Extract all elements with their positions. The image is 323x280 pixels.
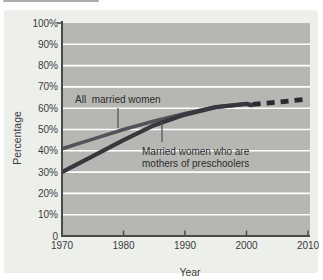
x-tick-label-1990: 1990 — [174, 240, 197, 251]
y-tick-label-30: 30% — [38, 167, 58, 178]
x-tick-label-1980: 1980 — [112, 240, 135, 251]
annotation-text-1-0: Married women who are — [142, 146, 250, 157]
x-tick-label-2000: 2000 — [235, 240, 258, 251]
y-tick-label-10: 10% — [38, 209, 58, 220]
annotation-text-0-0: All married women — [75, 94, 161, 105]
y-tick-label-70: 70% — [38, 81, 58, 92]
y-tick-label-40: 40% — [38, 145, 58, 156]
x-tick-label-1970: 1970 — [51, 240, 74, 251]
y-tick-label-90: 90% — [38, 39, 58, 50]
y-tick-label-100: 100% — [32, 18, 58, 29]
y-tick-label-50: 50% — [38, 124, 58, 135]
y-tick-label-80: 80% — [38, 60, 58, 71]
annotation-text-1-1: mothers of preschoolers — [142, 158, 249, 169]
x-tick-label-2010: 2010 — [297, 240, 320, 251]
y-tick-label-0: 0 — [52, 231, 58, 242]
line-chart: 19701980199020002010100%90%80%70%60%50%4… — [0, 0, 323, 280]
y-tick-label-20: 20% — [38, 188, 58, 199]
y-tick-label-60: 60% — [38, 103, 58, 114]
